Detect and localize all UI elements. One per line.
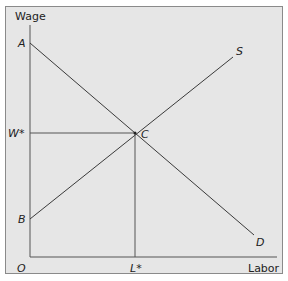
w-star-label: W* xyxy=(8,127,25,140)
y-axis-label: Wage xyxy=(15,10,46,23)
origin-label: O xyxy=(17,262,26,275)
labor-market-diagram: Wage Labor O A B C W* L* S D xyxy=(0,0,288,281)
supply-curve xyxy=(30,57,233,219)
x-axis-label: Labor xyxy=(248,262,280,275)
l-star-label: L* xyxy=(130,262,142,275)
supply-label: S xyxy=(236,45,243,58)
point-b-label: B xyxy=(18,213,26,226)
demand-label: D xyxy=(256,236,264,249)
equilibrium-point xyxy=(134,132,137,135)
point-c-label: C xyxy=(141,128,149,141)
point-a-label: A xyxy=(17,37,26,50)
